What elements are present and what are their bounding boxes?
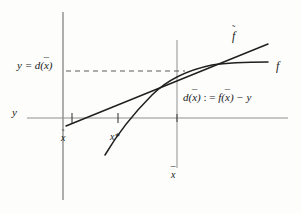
math-figure: y = d(x¯) y x˜ x* x¯ f˜ f d(x¯) : = f(x¯…	[0, 0, 301, 214]
gap-relation-symbol: : =	[201, 91, 219, 103]
label-x-tilde: x˜	[61, 133, 65, 143]
curve-f	[105, 62, 268, 155]
label-x-star: x*	[110, 132, 119, 142]
label-y-eq-d-prefix: y = d(	[17, 59, 44, 71]
label-x-bar: x¯	[171, 170, 175, 180]
label-x-bar-base: x	[171, 170, 175, 180]
line-f-tilde	[66, 44, 268, 126]
accented-f-tilde: f˜	[232, 30, 235, 42]
gap-lhs-x-base: x	[192, 92, 197, 103]
gap-rhs-accented-x: x¯	[225, 92, 230, 103]
gap-rhs-tail: − y	[234, 91, 252, 103]
label-gap-definition: d(x¯) : = f(x¯) − y	[183, 92, 251, 103]
label-y-eq-d-x-base: x	[44, 60, 49, 71]
gap-lhs-accented-x: x¯	[192, 92, 197, 103]
label-x-tilde-base: x	[61, 133, 65, 143]
label-f-tilde: f˜	[232, 30, 235, 42]
gap-lhs-open: d(	[183, 91, 192, 103]
label-y-eq-d-accented-x: x¯	[44, 60, 49, 71]
accented-x-bar: x¯	[171, 170, 175, 180]
label-y-equals-d-xbar: y = d(x¯)	[17, 60, 53, 71]
label-f-tilde-base: f	[232, 30, 235, 42]
figure-canvas	[0, 0, 301, 214]
label-y-eq-d-suffix: )	[49, 59, 53, 71]
label-f: f	[276, 60, 279, 72]
gap-rhs-fn: f(	[218, 91, 225, 103]
accented-x-tilde: x˜	[61, 133, 65, 143]
gap-rhs-x-base: x	[225, 92, 230, 103]
label-y-level: y	[12, 107, 17, 118]
